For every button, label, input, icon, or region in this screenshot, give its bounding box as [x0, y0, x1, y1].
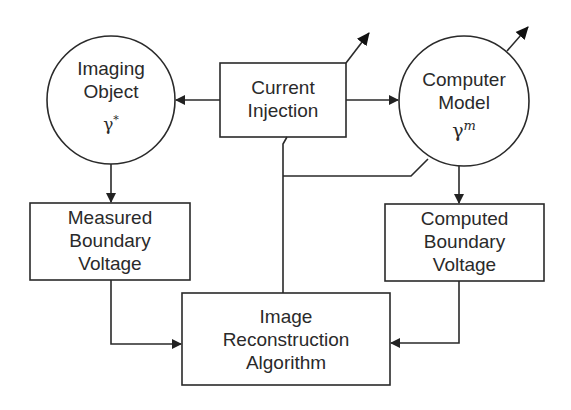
gamma-m-symbol: γm [404, 114, 524, 142]
current-injection-label: Current Injection [220, 76, 346, 122]
reconstruction-line-2: Reconstruction [182, 328, 390, 351]
imaging-object-line-1: Imaging [51, 57, 171, 80]
computer-model-line-1: Computer [404, 68, 524, 91]
edge-computed-to-reconstruction [391, 281, 459, 343]
computed-voltage-label: Computed Boundary Voltage [385, 207, 544, 276]
gamma-star-symbol: γ* [51, 108, 171, 136]
computer-model-label: Computer Model γm [404, 68, 524, 142]
reconstruction-line-3: Algorithm [182, 351, 390, 374]
measured-voltage-line-3: Voltage [30, 252, 190, 275]
current-injection-line-1: Current [220, 76, 346, 99]
computed-voltage-line-3: Voltage [385, 253, 544, 276]
reconstruction-line-1: Image [182, 305, 390, 328]
edge-measured-to-reconstruction [111, 280, 181, 344]
adjust-arrow-injection [346, 33, 369, 63]
imaging-object-label: Imaging Object γ* [51, 57, 171, 136]
measured-voltage-line-2: Boundary [30, 229, 190, 252]
edge-update-injection [283, 137, 287, 293]
measured-voltage-line-1: Measured [30, 206, 190, 229]
imaging-object-line-2: Object [51, 80, 171, 103]
adjust-arrow-model [507, 27, 528, 51]
computed-voltage-line-2: Boundary [385, 230, 544, 253]
computed-voltage-line-1: Computed [385, 207, 544, 230]
reconstruction-label: Image Reconstruction Algorithm [182, 305, 390, 374]
edge-update-model [283, 159, 428, 176]
measured-voltage-label: Measured Boundary Voltage [30, 206, 190, 275]
computer-model-line-2: Model [404, 91, 524, 114]
current-injection-line-2: Injection [220, 99, 346, 122]
